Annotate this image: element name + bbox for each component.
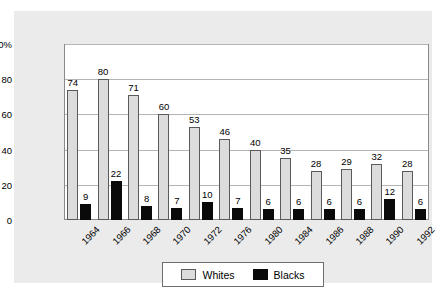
bar-value-label-whites-1980: 40: [250, 137, 261, 148]
x-tick-label-1986: 1986: [323, 224, 346, 247]
bar-value-label-blacks-1976: 7: [235, 195, 240, 206]
bar-blacks-1984[interactable]: [293, 209, 304, 220]
bar-value-label-whites-1990: 32: [372, 151, 383, 162]
x-tick-label-1984: 1984: [292, 224, 315, 247]
bar-blacks-1968[interactable]: [141, 206, 152, 220]
bar-group-1986: 286: [311, 44, 335, 220]
y-tick-label-40: 40: [0, 144, 12, 155]
bar-value-label-whites-1968: 71: [128, 82, 139, 93]
bar-series-container: 749802271860753104674063562862963212286: [64, 44, 429, 220]
bar-group-1970: 607: [158, 44, 182, 220]
bar-value-label-blacks-1964: 9: [83, 191, 88, 202]
bar-value-label-whites-1976: 46: [219, 126, 230, 137]
bar-value-label-blacks-1988: 6: [357, 196, 362, 207]
x-tick-label-1964: 1964: [79, 224, 102, 247]
bar-value-label-blacks-1984: 6: [296, 196, 301, 207]
bar-blacks-1970[interactable]: [171, 208, 182, 220]
bar-value-label-blacks-1992: 6: [418, 196, 423, 207]
blacks-swatch: [253, 269, 268, 280]
x-tick-label-1992: 1992: [414, 224, 437, 247]
bar-whites-1964[interactable]: [67, 90, 78, 220]
bar-value-label-blacks-1972: 10: [202, 189, 213, 200]
bar-group-1968: 718: [128, 44, 152, 220]
y-axis: 020406080100%: [14, 11, 64, 283]
bar-whites-1984[interactable]: [280, 158, 291, 220]
bar-value-label-blacks-1980: 6: [266, 196, 271, 207]
x-tick-label-1980: 1980: [262, 224, 285, 247]
bar-value-label-whites-1972: 53: [189, 114, 200, 125]
bar-whites-1972[interactable]: [189, 127, 200, 220]
bar-whites-1988[interactable]: [341, 169, 352, 220]
bar-blacks-1976[interactable]: [232, 208, 243, 220]
bar-group-1992: 286: [402, 44, 426, 220]
x-tick-label-1988: 1988: [353, 224, 376, 247]
chart-figure: 020406080100% 74980227186075310467406356…: [0, 0, 448, 299]
bar-blacks-1972[interactable]: [202, 202, 213, 220]
y-tick-label-20: 20: [0, 179, 12, 190]
bar-blacks-1966[interactable]: [111, 181, 122, 220]
y-tick-label-80: 80: [0, 74, 12, 85]
x-tick-label-1972: 1972: [201, 224, 224, 247]
chart-legend: WhitesBlacks: [162, 262, 324, 287]
bar-value-label-whites-1992: 28: [402, 158, 413, 169]
bar-value-label-whites-1986: 28: [311, 158, 322, 169]
bar-group-1972: 5310: [189, 44, 213, 220]
bar-whites-1968[interactable]: [128, 95, 139, 220]
bar-group-1990: 3212: [371, 44, 395, 220]
bar-value-label-whites-1984: 35: [280, 145, 291, 156]
bar-blacks-1990[interactable]: [384, 199, 395, 220]
bar-group-1980: 406: [250, 44, 274, 220]
bar-group-1964: 749: [67, 44, 91, 220]
bar-whites-1976[interactable]: [219, 139, 230, 220]
whites-swatch: [181, 269, 196, 280]
bar-whites-1980[interactable]: [250, 150, 261, 220]
bar-blacks-1986[interactable]: [324, 209, 335, 220]
bar-blacks-1992[interactable]: [415, 209, 426, 220]
bar-value-label-whites-1970: 60: [159, 101, 170, 112]
bar-whites-1986[interactable]: [311, 171, 322, 220]
y-tick-label-0: 0: [0, 215, 12, 226]
x-tick-label-1976: 1976: [231, 224, 254, 247]
chart-panel: 020406080100% 74980227186075310467406356…: [14, 11, 432, 283]
legend-label-whites: Whites: [202, 269, 234, 281]
bar-blacks-1988[interactable]: [354, 209, 365, 220]
legend-item-blacks[interactable]: Blacks: [253, 269, 305, 281]
x-tick-label-1966: 1966: [110, 224, 133, 247]
bar-group-1984: 356: [280, 44, 304, 220]
bar-value-label-blacks-1990: 12: [385, 186, 396, 197]
bar-value-label-whites-1964: 74: [67, 77, 78, 88]
bar-group-1966: 8022: [98, 44, 122, 220]
bar-value-label-whites-1966: 80: [98, 66, 109, 77]
bar-value-label-blacks-1986: 6: [326, 196, 331, 207]
legend-label-blacks: Blacks: [274, 269, 305, 281]
bar-whites-1990[interactable]: [371, 164, 382, 220]
bar-whites-1966[interactable]: [98, 79, 109, 220]
y-tick-label-60: 60: [0, 109, 12, 120]
bar-value-label-blacks-1966: 22: [111, 168, 122, 179]
legend-item-whites[interactable]: Whites: [181, 269, 234, 281]
bar-group-1976: 467: [219, 44, 243, 220]
bar-value-label-whites-1988: 29: [341, 156, 352, 167]
x-tick-label-1968: 1968: [140, 224, 163, 247]
bar-group-1988: 296: [341, 44, 365, 220]
x-tick-label-1970: 1970: [171, 224, 194, 247]
bar-blacks-1980[interactable]: [263, 209, 274, 220]
bar-whites-1970[interactable]: [158, 114, 169, 220]
bar-blacks-1964[interactable]: [80, 204, 91, 220]
x-axis: 1964196619681970197219761980198419861988…: [64, 222, 429, 266]
bar-whites-1992[interactable]: [402, 171, 413, 220]
x-tick-label-1990: 1990: [383, 224, 406, 247]
bar-value-label-blacks-1968: 8: [144, 193, 149, 204]
bar-value-label-blacks-1970: 7: [174, 195, 179, 206]
y-tick-label-100: 100%: [0, 39, 12, 50]
